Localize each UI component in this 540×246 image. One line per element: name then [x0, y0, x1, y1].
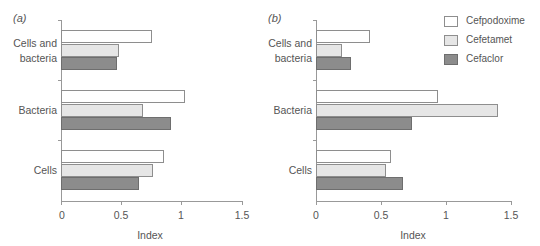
bar-cefpodoxime-bacteria [316, 90, 438, 103]
category-label-bacteria: Bacteria [273, 103, 312, 118]
bar-cefaclor-cells [316, 177, 403, 190]
bar-cefetamet-bacteria [316, 104, 498, 117]
y-tick [313, 20, 317, 21]
category-label-line: bacteria [268, 51, 312, 66]
category-label-cells: Cells [289, 163, 312, 178]
y-tick [313, 140, 317, 141]
category-label-cells-and-bacteria: Cells and bacteria [268, 36, 312, 66]
bar-cefpodoxime-cells-and-bacteria [316, 30, 370, 43]
x-tick [381, 201, 382, 205]
x-axis-title: Index [400, 229, 426, 241]
x-tick [511, 201, 512, 205]
x-tick-label: 0.5 [374, 209, 389, 221]
legend-swatch-icon [444, 16, 458, 27]
category-label-line: Cells and [268, 36, 312, 51]
legend-swatch-icon [444, 35, 458, 46]
x-axis [316, 201, 512, 202]
legend-swatch-icon [444, 54, 458, 65]
panel-b: (b) Cells and bacteria Bacteria Cells 0 … [0, 0, 540, 246]
bar-cefaclor-bacteria [316, 117, 412, 130]
panel-b-label: (b) [268, 12, 281, 24]
x-tick [316, 201, 317, 205]
legend-label: Cefaclor [466, 53, 503, 64]
x-tick-label: 0 [313, 209, 319, 221]
bar-cefaclor-cells-and-bacteria [316, 57, 351, 70]
x-tick [446, 201, 447, 205]
y-tick [313, 80, 317, 81]
bar-cefpodoxime-cells [316, 150, 391, 163]
bar-cefetamet-cells-and-bacteria [316, 44, 342, 57]
x-tick-label: 1 [443, 209, 449, 221]
legend-label: Cefetamet [466, 34, 512, 45]
bar-cefetamet-cells [316, 164, 386, 177]
x-tick-label: 1.5 [504, 209, 519, 221]
legend-label: Cefpodoxime [466, 15, 525, 26]
